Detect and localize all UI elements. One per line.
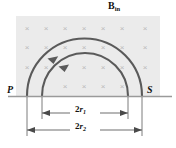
field-cross-icon: × xyxy=(120,82,125,91)
dimension-sub-outer: 2 xyxy=(83,126,86,132)
field-cross-icon: × xyxy=(63,82,68,91)
field-cross-icon: × xyxy=(82,43,87,52)
field-cross-icon: × xyxy=(25,63,30,72)
field-cross-icon: × xyxy=(25,43,30,52)
field-cross-icon: × xyxy=(101,43,106,52)
dimension-sub-inner: 1 xyxy=(83,109,86,115)
field-cross-icon: × xyxy=(101,63,106,72)
field-cross-icon: × xyxy=(44,24,49,33)
point-label-p: P xyxy=(7,85,13,95)
magnetic-field-semicircle-diagram: × × × × × × × × × × × × × × × × × × × × … xyxy=(0,0,176,148)
field-cross-icon: × xyxy=(63,43,68,52)
field-cross-icon: × xyxy=(143,24,148,33)
magnetic-field-symbol: B xyxy=(108,0,115,11)
field-cross-icon: × xyxy=(82,82,87,91)
field-cross-icon: × xyxy=(101,82,106,91)
magnetic-field-label: Bin xyxy=(108,1,120,13)
field-cross-icon: × xyxy=(120,24,125,33)
arrow-right-icon xyxy=(120,110,128,116)
dimension-label-inner: 2r1 xyxy=(75,105,86,115)
arrow-left-icon xyxy=(27,127,35,133)
dimension-label-outer: 2r2 xyxy=(75,122,86,132)
field-cross-icon: × xyxy=(25,24,30,33)
point-label-s: S xyxy=(147,85,153,95)
field-cross-icon: × xyxy=(82,24,87,33)
arrow-right-icon xyxy=(134,127,142,133)
field-region xyxy=(16,16,160,96)
magnetic-field-subscript: in xyxy=(115,5,120,12)
field-cross-icon: × xyxy=(63,24,68,33)
arrow-left-icon xyxy=(42,110,50,116)
field-cross-icon: × xyxy=(143,63,148,72)
field-cross-icon: × xyxy=(143,43,148,52)
field-cross-icon: × xyxy=(82,63,87,72)
field-cross-icon: × xyxy=(44,63,49,72)
field-cross-icon: × xyxy=(101,24,106,33)
